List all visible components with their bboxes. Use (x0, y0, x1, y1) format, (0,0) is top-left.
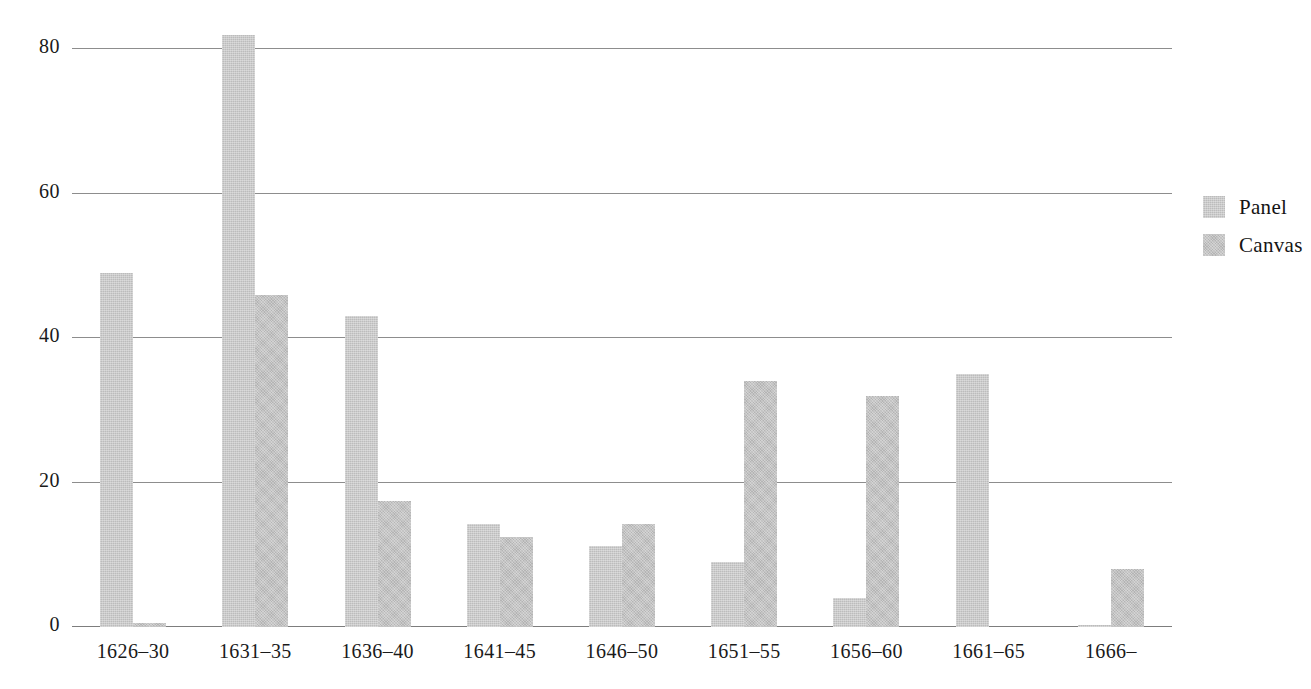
bar-canvas[interactable] (133, 623, 166, 627)
y-tick-label-0: 0 (14, 613, 60, 636)
bar-group (711, 20, 777, 627)
bar-group (100, 20, 166, 627)
legend-item-panel[interactable]: Panel (1203, 188, 1303, 226)
legend-swatch-canvas-icon (1203, 234, 1225, 256)
bar-panel[interactable] (833, 598, 866, 627)
bar-group (467, 20, 533, 627)
bar-panel[interactable] (100, 273, 133, 627)
x-tick-label: 1666– (1036, 640, 1186, 663)
bar-panel[interactable] (1078, 625, 1111, 627)
y-tick-label-60: 60 (14, 180, 60, 203)
bar-canvas[interactable] (866, 396, 899, 627)
y-tick-label-80: 80 (14, 35, 60, 58)
bar-group (833, 20, 899, 627)
bar-group (589, 20, 655, 627)
bar-group (222, 20, 288, 627)
legend: Panel Canvas (1203, 188, 1303, 264)
bar-canvas[interactable] (1111, 569, 1144, 627)
bar-group (956, 20, 1022, 627)
y-tick-label-40: 40 (14, 324, 60, 347)
legend-label-panel: Panel (1239, 195, 1287, 220)
bar-canvas[interactable] (500, 537, 533, 627)
bar-group (345, 20, 411, 627)
plot-area (72, 20, 1172, 627)
bar-canvas[interactable] (378, 501, 411, 627)
y-axis-labels: 020406080 (0, 20, 60, 627)
bar-panel[interactable] (467, 524, 500, 627)
legend-swatch-panel-icon (1203, 196, 1225, 218)
bar-panel[interactable] (956, 374, 989, 627)
bar-series-container (72, 20, 1172, 627)
y-tick-label-20: 20 (14, 469, 60, 492)
bar-panel[interactable] (222, 35, 255, 627)
legend-label-canvas: Canvas (1239, 233, 1303, 258)
bar-panel[interactable] (589, 546, 622, 627)
x-axis-labels: 1626–301631–351636–401641–451646–501651–… (72, 640, 1172, 680)
bar-chart-figure: 020406080 1626–301631–351636–401641–4516… (0, 0, 1311, 689)
bar-panel[interactable] (345, 316, 378, 627)
legend-item-canvas[interactable]: Canvas (1203, 226, 1303, 264)
bar-panel[interactable] (711, 562, 744, 627)
bar-canvas[interactable] (622, 524, 655, 627)
bar-group (1078, 20, 1144, 627)
bar-canvas[interactable] (744, 381, 777, 627)
bar-canvas[interactable] (255, 295, 288, 627)
